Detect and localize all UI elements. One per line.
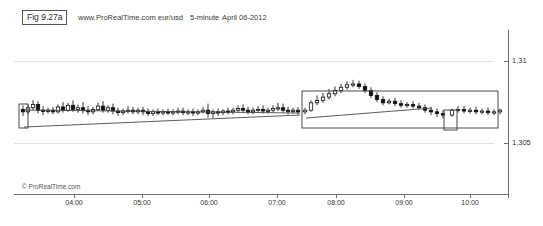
price-axis-label: 1,305 (512, 139, 531, 147)
instrument-symbol: eur/usd (158, 13, 183, 23)
price-gridline (14, 61, 494, 62)
timeframe-label: 5-minute (190, 13, 219, 23)
plot-area (14, 34, 508, 194)
time-axis-label: 06:00 (200, 199, 218, 207)
chart-screenshot: Fig 9.27a www.ProRealTime.com eur/usd 5-… (0, 0, 543, 226)
figure-label: Fig 9.27a (22, 10, 67, 25)
time-axis-label: 05:00 (133, 199, 151, 207)
time-axis-label: 08:00 (327, 199, 345, 207)
provider-watermark: © ProRealTime.com (22, 183, 80, 191)
provider-website: www.ProRealTime.com (78, 13, 156, 23)
chart-header: Fig 9.27a www.ProRealTime.com eur/usd 5-… (0, 10, 543, 30)
price-gridline (14, 143, 494, 144)
time-axis-label: 04:00 (65, 199, 83, 207)
price-axis-line (508, 30, 509, 198)
time-axis-label: 10:00 (461, 199, 479, 207)
time-axis-label: 09:00 (395, 199, 413, 207)
price-axis-label: 1,31 (512, 57, 527, 65)
session-date: April 06-2012 (222, 13, 267, 23)
time-axis-label: 07:00 (268, 199, 286, 207)
time-axis-line (14, 194, 508, 195)
